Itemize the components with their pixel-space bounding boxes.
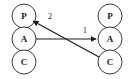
node-left-a-label: A [21,34,28,44]
left-agent-stack: P A C [12,4,36,74]
pac-node-diagram: P A C P A C 2 1 [0,0,132,79]
right-agent-stack: P A C [98,4,122,74]
node-left-p-label: P [21,11,27,21]
diagram-canvas: P A C P A C 2 1 [0,0,132,79]
node-right-a-label: A [107,34,114,44]
edge-1-label: 1 [83,26,87,35]
node-left-c-label: C [21,57,28,67]
node-right-c-label: C [107,57,114,67]
edge-2-label: 2 [48,12,52,21]
node-right-p-label: P [107,11,113,21]
